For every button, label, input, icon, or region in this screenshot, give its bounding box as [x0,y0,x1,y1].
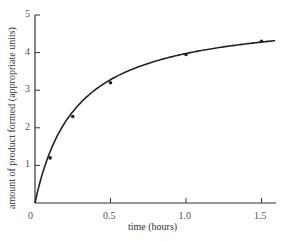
data-point [260,40,264,44]
y-tick-label: 1 [25,159,30,169]
y-tick-label: 4 [25,47,30,57]
y-tick-label: 5 [25,9,30,19]
x-tick-label: 1.0 [179,211,192,221]
data-points [48,40,263,160]
x-tick-label: 0 [28,211,33,221]
data-curve [35,41,275,203]
y-tick-label: 2 [25,122,30,132]
data-point [109,81,113,85]
x-axis-label: time (hours) [128,222,177,232]
chart-plot [0,0,286,241]
data-point [71,115,75,119]
y-axis-label: amount of product formed (appropriate un… [7,12,17,224]
x-tick-label: 0.5 [103,211,116,221]
x-tick-label: 1.5 [254,211,267,221]
y-tick-label: 3 [25,84,30,94]
data-point [48,156,52,160]
axes [35,15,276,203]
data-point [184,53,188,57]
